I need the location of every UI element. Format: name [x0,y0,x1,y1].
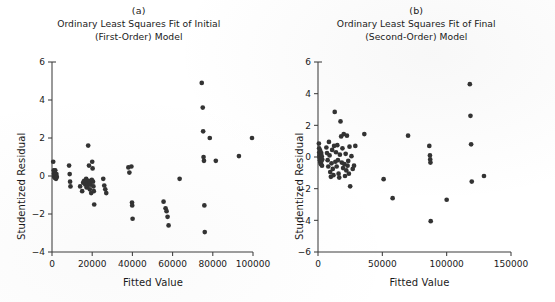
panel-b-plot-area: −6−4−20246050000100000150000 [278,0,555,302]
panel-a-xlabel: Fitted Value [52,277,254,288]
svg-text:0: 0 [315,259,321,269]
data-point [91,189,96,194]
data-point [202,203,207,208]
data-point [444,197,449,202]
data-point [338,119,343,124]
data-point [347,184,352,189]
data-point [428,219,433,224]
data-point [336,171,341,176]
data-point [327,153,332,158]
data-point [161,199,166,204]
data-point [324,145,329,150]
data-point [80,189,85,194]
data-point [130,216,135,221]
data-point [345,159,350,164]
data-point [166,223,171,228]
data-point [68,179,73,184]
data-point [92,202,97,207]
data-point [469,179,474,184]
data-point [332,110,337,115]
data-point [390,196,395,201]
data-point [207,136,212,141]
data-point [91,179,96,184]
svg-text:20000: 20000 [78,259,107,269]
data-point [202,230,207,235]
data-point [337,152,342,157]
data-point [481,174,486,179]
data-point [428,160,433,165]
data-point [165,215,170,220]
svg-text:80000: 80000 [198,259,227,269]
data-point [127,170,132,175]
data-point [334,164,339,169]
svg-text:6: 6 [39,57,45,67]
panel-row: (a) Ordinary Least Squares Fit of Initia… [0,0,555,302]
svg-text:6: 6 [305,57,311,67]
data-point [347,144,352,149]
data-point [202,158,207,163]
data-point [468,142,473,147]
data-point [177,177,182,182]
svg-text:−6: −6 [297,247,311,257]
data-point [426,144,431,149]
data-point [346,171,351,176]
data-point [101,177,106,182]
svg-text:4: 4 [39,95,45,105]
svg-text:100000: 100000 [236,259,271,269]
data-point [334,143,339,148]
data-point [405,133,410,138]
data-point [326,140,331,145]
data-point [67,172,72,177]
data-point [90,159,95,164]
panel-b: (b) Ordinary Least Squares Fit of Final … [278,0,555,302]
data-point [54,175,59,180]
data-point [340,146,345,151]
data-point [51,159,56,164]
data-point [237,154,242,159]
data-point [201,129,206,134]
data-point [68,184,73,189]
data-point [250,136,255,141]
svg-text:100000: 100000 [429,259,464,269]
panel-b-xlabel: Fitted Value [320,277,520,288]
data-point [352,144,357,149]
data-point [67,163,72,168]
data-point [319,163,324,168]
data-point [336,175,341,180]
svg-text:0: 0 [305,152,311,162]
data-point [130,203,135,208]
svg-text:0: 0 [49,259,55,269]
data-point [361,132,366,137]
data-point [351,163,356,168]
svg-text:50000: 50000 [368,259,397,269]
data-point [467,82,472,87]
svg-text:60000: 60000 [158,259,187,269]
data-point [90,166,95,171]
svg-text:−2: −2 [297,184,310,194]
data-point [381,177,386,182]
svg-text:−4: −4 [32,247,46,257]
data-point [325,158,330,163]
data-point [319,157,324,162]
figure-page: (a) Ordinary Least Squares Fit of Initia… [0,0,555,302]
svg-text:−4: −4 [297,216,311,226]
svg-text:150000: 150000 [493,259,528,269]
data-point [344,133,349,138]
data-point [345,163,350,168]
data-point [91,184,96,189]
svg-text:4: 4 [305,89,311,99]
svg-text:40000: 40000 [118,259,147,269]
data-point [86,143,91,148]
data-point [468,113,473,118]
panel-a: (a) Ordinary Least Squares Fit of Initia… [0,0,278,302]
data-point [316,141,321,146]
svg-text:−2: −2 [32,209,45,219]
panel-a-plot-area: −4−20246020000400006000080000100000 [0,0,277,302]
data-point [349,154,354,159]
data-point [200,105,205,110]
data-point [78,184,83,189]
data-point [343,151,348,156]
svg-text:2: 2 [305,121,311,131]
svg-text:0: 0 [39,171,45,181]
data-point [213,158,218,163]
